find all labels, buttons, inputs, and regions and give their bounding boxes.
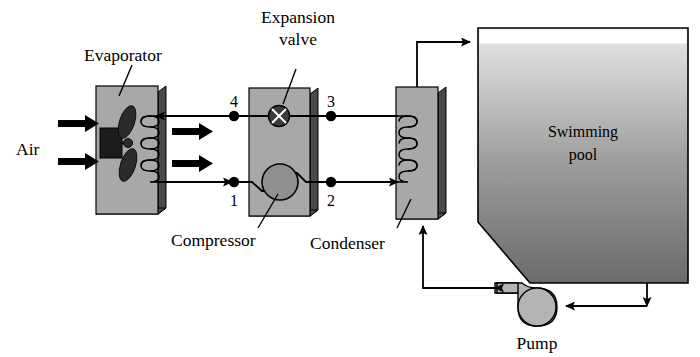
pool-label-line1: Swimming xyxy=(548,123,618,141)
condenser-label: Condenser xyxy=(310,233,385,253)
diagram-canvas: Swimming pool xyxy=(0,0,700,357)
expansion-valve xyxy=(269,106,290,127)
state-point-1-node xyxy=(229,177,239,187)
pool-label-line2: pool xyxy=(569,146,598,164)
compressor-label: Compressor xyxy=(171,230,256,250)
pump-label: Pump xyxy=(517,333,558,353)
state-point-3-label: 3 xyxy=(327,93,335,110)
state-point-4-node xyxy=(229,111,239,121)
pump-casing xyxy=(518,288,556,326)
heat-pump-diagram: Swimming pool xyxy=(0,0,700,357)
state-point-2-label: 2 xyxy=(327,192,335,209)
state-point-4-label: 4 xyxy=(230,93,238,110)
condenser-unit xyxy=(396,87,446,219)
machine-panel-side-edge xyxy=(310,88,318,216)
expansion-valve-label-line1: Expansion xyxy=(261,7,335,27)
condenser-side-edge xyxy=(438,87,446,219)
state-point-3-node xyxy=(326,111,336,121)
condenser-housing xyxy=(396,87,438,219)
pool-water-surface-gap xyxy=(480,30,687,44)
evaporator-side-edge xyxy=(158,86,166,214)
evaporator-unit xyxy=(96,86,166,214)
compressor-body xyxy=(262,164,298,200)
pump-discharge-spout xyxy=(497,283,518,293)
fan-hub xyxy=(124,139,133,148)
swimming-pool: Swimming pool xyxy=(478,28,688,283)
expansion-valve-label-line2: valve xyxy=(279,29,317,49)
air-label: Air xyxy=(16,139,40,159)
state-point-2-node xyxy=(326,177,336,187)
state-point-1-label: 1 xyxy=(230,192,238,209)
evaporator-label: Evaporator xyxy=(84,45,162,65)
